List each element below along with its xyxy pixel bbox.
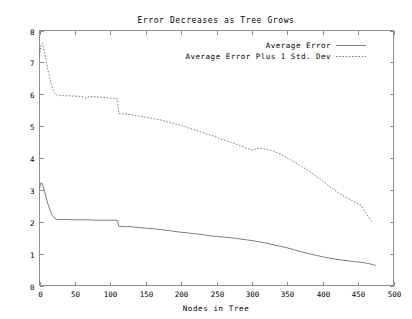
y-tick-label: 1 [30, 251, 35, 260]
x-tick-label: 100 [104, 290, 118, 299]
x-tick-label: 350 [281, 290, 295, 299]
y-tick-label: 2 [30, 219, 35, 228]
series-line-average-error-plus-1-std-dev [40, 43, 373, 222]
y-tick-label: 0 [30, 283, 35, 292]
chart-container: 050100150200250300350400450500 012345678… [0, 0, 412, 319]
legend-label-average-error: Average Error [266, 41, 331, 50]
y-axis-ticks [40, 32, 394, 287]
y-tick-label: 7 [30, 59, 35, 68]
y-axis-tick-labels: 012345678 [30, 28, 35, 292]
x-tick-label: 250 [211, 290, 225, 299]
y-tick-label: 8 [30, 28, 35, 37]
series-line-average-error [40, 183, 376, 266]
legend-label-average-error-plus-1-std-dev: Average Error Plus 1 Std. Dev [186, 52, 331, 61]
chart-title: Error Decreases as Tree Grows [137, 16, 294, 25]
x-tick-label: 50 [71, 290, 81, 299]
x-tick-label: 500 [388, 290, 402, 299]
x-axis-label: Nodes in Tree [183, 304, 250, 313]
y-tick-label: 4 [30, 155, 35, 164]
plot-frame [40, 31, 394, 286]
x-tick-label: 0 [38, 290, 43, 299]
x-tick-label: 450 [352, 290, 366, 299]
y-tick-label: 3 [30, 187, 35, 196]
x-tick-label: 300 [246, 290, 260, 299]
x-tick-label: 150 [140, 290, 154, 299]
x-tick-label: 200 [175, 290, 189, 299]
error-vs-nodes-line-chart: 050100150200250300350400450500 012345678… [0, 0, 412, 319]
chart-legend: Average Error Average Error Plus 1 Std. … [186, 41, 366, 61]
x-axis-ticks [41, 31, 395, 286]
x-axis-tick-labels: 050100150200250300350400450500 [38, 290, 402, 299]
x-tick-label: 400 [317, 290, 331, 299]
y-tick-label: 6 [30, 91, 35, 100]
y-tick-label: 5 [30, 123, 35, 132]
